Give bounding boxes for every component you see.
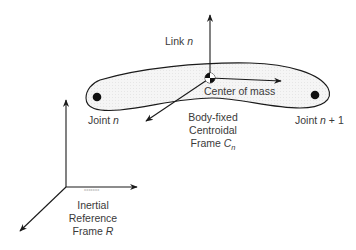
svg-text:Frame Cn: Frame Cn	[190, 137, 235, 152]
robot-link-frames-diagram: xxxxxxx Link n Center of mass Joint n Jo…	[0, 0, 356, 250]
svg-text:Reference: Reference	[69, 212, 118, 224]
joint-n1-marker	[311, 91, 320, 100]
svg-text:Body-fixed: Body-fixed	[188, 111, 238, 123]
inertial-frame-label: Inertial Reference Frame R	[69, 199, 118, 237]
center-of-mass-label: Center of mass	[204, 85, 275, 97]
inertial-y-axis-arrow	[20, 187, 66, 231]
joint-n-plus-1-label: Joint n + 1	[295, 114, 344, 126]
center-of-mass-icon	[205, 73, 215, 83]
body-fixed-frame-label: Body-fixed Centroidal Frame Cn	[188, 111, 238, 152]
svg-text:Frame R: Frame R	[73, 225, 114, 237]
joint-n-marker	[93, 93, 102, 102]
svg-text:Inertial: Inertial	[77, 199, 109, 211]
joint-n-label: Joint n	[88, 114, 119, 126]
link-n-label: Link n	[165, 35, 193, 47]
inertial-axis-hatch: xxxxxxx	[84, 187, 99, 192]
svg-text:Centroidal: Centroidal	[189, 124, 237, 136]
